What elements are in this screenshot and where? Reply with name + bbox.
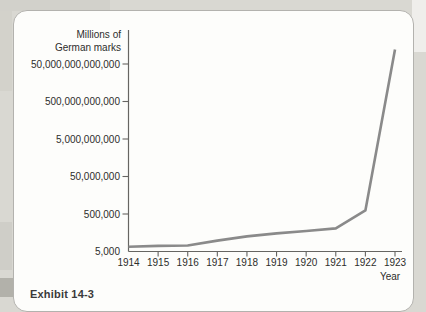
x-axis-title: Year [380, 271, 401, 282]
exhibit-caption: Exhibit 14-3 [30, 288, 94, 300]
x-tick-label: 1916 [177, 257, 200, 268]
y-tick-label: 500,000,000,000 [45, 96, 121, 107]
x-tick-label: 1915 [147, 257, 170, 268]
x-tick-label: 1921 [325, 257, 348, 268]
x-tick-label: 1922 [354, 257, 377, 268]
y-axis-title-line2: German marks [55, 42, 121, 53]
y-tick-label: 5,000,000,000 [56, 134, 120, 145]
x-tick-label: 1918 [236, 257, 259, 268]
x-tick-label: 1920 [295, 257, 318, 268]
x-tick-label: 1917 [206, 257, 229, 268]
x-tick-label: 1923 [384, 257, 407, 268]
x-tick-label: 1919 [265, 257, 288, 268]
x-tick-label: 1914 [117, 257, 140, 268]
series-line-german-marks [129, 49, 396, 246]
y-axis-title-line1: Millions of [77, 29, 122, 40]
y-tick-label: 5,000 [95, 246, 120, 257]
y-tick-label: 500,000 [84, 209, 121, 220]
y-tick-label: 50,000,000 [70, 171, 120, 182]
y-tick-label: 50,000,000,000,000 [31, 59, 120, 70]
